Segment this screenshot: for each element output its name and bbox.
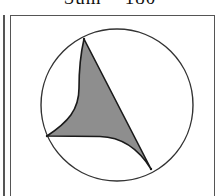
- triangle-in-circle-figure: [0, 0, 220, 196]
- curved-triangle: [47, 39, 151, 169]
- vertex-bottom-right-dot: [150, 168, 152, 170]
- vertex-left-dot: [46, 135, 48, 137]
- vertex-top-dot: [83, 38, 85, 40]
